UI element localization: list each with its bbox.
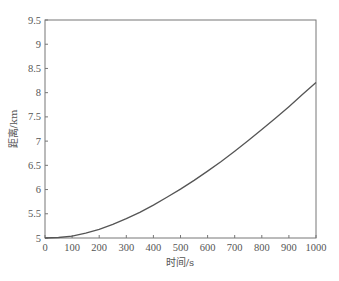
x-tick-label: 300 — [118, 242, 134, 253]
x-axis-label: 时间/s — [166, 256, 195, 268]
y-tick-label: 8 — [36, 87, 41, 98]
x-tick-label: 100 — [64, 242, 80, 253]
y-tick-label: 5.5 — [28, 208, 41, 219]
x-tick-label: 0 — [42, 242, 47, 253]
x-tick-label: 200 — [91, 242, 107, 253]
x-tick-label: 600 — [200, 242, 216, 253]
y-tick-label: 8.5 — [28, 63, 41, 74]
y-tick-label: 9 — [36, 39, 41, 50]
y-tick-label: 6.5 — [28, 160, 41, 171]
x-tick-label: 900 — [281, 242, 297, 253]
x-tick-label: 500 — [173, 242, 189, 253]
distance-curve — [45, 83, 316, 239]
y-axis-label: 距离/km — [7, 109, 19, 148]
x-tick-label: 700 — [227, 242, 243, 253]
y-tick-label: 5 — [36, 233, 41, 244]
y-tick-label: 7 — [36, 136, 41, 147]
x-tick-label: 400 — [146, 242, 162, 253]
plot-frame — [45, 20, 316, 238]
y-tick-label: 6 — [36, 184, 41, 195]
x-tick-label: 800 — [254, 242, 270, 253]
y-tick-label: 7.5 — [28, 111, 41, 122]
y-tick-label: 9.5 — [28, 15, 41, 26]
line-chart: 01002003004005006007008009001000 55.566.… — [0, 0, 339, 281]
x-tick-label: 1000 — [306, 242, 327, 253]
